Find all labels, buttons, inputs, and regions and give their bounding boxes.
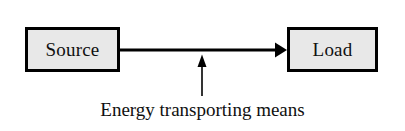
energy-flow-arrow-icon [120, 43, 287, 58]
energy-flow-arrow-head [275, 43, 287, 58]
caption-label: Energy transporting means [0, 99, 405, 121]
pointer-arrow-icon [198, 55, 207, 97]
diagram-canvas: Source Load Energy transporting means [0, 0, 405, 131]
pointer-arrow-head [198, 55, 207, 68]
